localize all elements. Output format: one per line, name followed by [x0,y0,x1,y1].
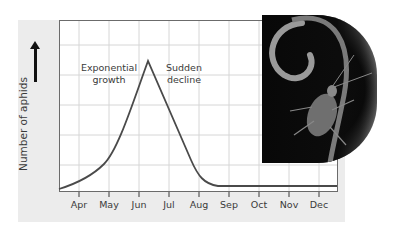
x-axis-ticks [79,192,319,197]
x-tick-nov: Nov [274,199,304,210]
aphid-photo [262,15,377,163]
x-tick-aug: Aug [184,199,214,210]
x-tick-oct: Oct [244,199,274,210]
x-tick-jun: Jun [124,199,154,210]
y-axis-label: Number of aphids [17,69,29,179]
annotation-sudden-decline: Sudden decline [164,62,204,86]
x-tick-sep: Sep [214,199,244,210]
annotation-growth-line1: Exponential [78,62,140,74]
x-tick-dec: Dec [304,199,334,210]
x-tick-apr: Apr [64,199,94,210]
arrow-up-icon [34,48,37,82]
x-tick-jul: Jul [154,199,184,210]
annotation-exponential-growth: Exponential growth [78,62,140,86]
aphid-illustration [262,15,377,163]
annotation-decline-line1: Sudden [164,62,204,74]
annotation-growth-line2: growth [78,74,140,86]
annotation-decline-line2: decline [164,74,204,86]
x-tick-may: May [94,199,124,210]
